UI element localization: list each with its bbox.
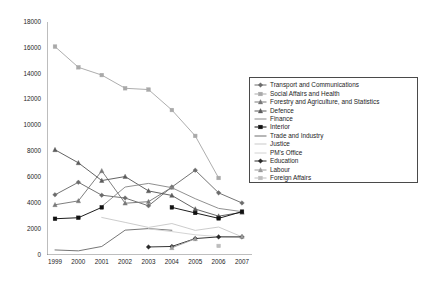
chart-canvas [47, 22, 252, 255]
data-point [193, 134, 197, 138]
data-point [193, 207, 197, 211]
legend-label: Finance [270, 115, 293, 123]
data-point [76, 160, 80, 164]
legend-item[interactable]: Transport and Communications [254, 81, 417, 89]
chart-figure: 0200040006000800010000120001400016000180… [0, 0, 422, 285]
legend-label: Social Affairs and Health [270, 90, 340, 98]
legend-marker-icon [254, 98, 267, 106]
legend-item[interactable]: Labour [254, 165, 417, 173]
series-social-affairs-and-health [53, 45, 220, 180]
data-point [53, 45, 57, 49]
data-point [100, 73, 104, 77]
legend-label: Trade and Industry [270, 132, 323, 140]
legend-label: Education [270, 157, 298, 165]
data-point [53, 217, 57, 221]
y-axis-tick-label: 12000 [7, 96, 41, 102]
data-point [170, 108, 174, 112]
legend-marker-icon [254, 174, 267, 182]
data-point [123, 174, 127, 178]
y-axis-tick-label: 14000 [7, 71, 41, 77]
legend-item[interactable]: Social Affairs and Health [254, 89, 417, 97]
legend-marker-icon [254, 107, 267, 115]
y-axis-tick-label: 18000 [7, 19, 41, 25]
data-point [100, 206, 104, 210]
legend-label: PM's Office [270, 149, 302, 157]
legend-label: Forestry and Agriculture, and Statistics [270, 98, 379, 106]
data-point [170, 206, 174, 210]
legend-label: Foreign Affairs [270, 174, 311, 182]
legend-item[interactable]: Education [254, 157, 417, 165]
y-axis: 0200040006000800010000120001400016000180… [5, 0, 41, 285]
data-point [76, 180, 81, 185]
legend-marker-icon [254, 166, 267, 174]
y-axis-tick-label: 8000 [7, 148, 41, 154]
data-point [240, 201, 245, 206]
legend-item[interactable]: Defence [254, 106, 417, 114]
data-point [77, 216, 81, 220]
data-point [53, 193, 58, 198]
chart-legend: Transport and CommunicationsSocial Affai… [249, 77, 418, 183]
series-foreign-affairs [217, 244, 221, 248]
legend-marker-icon [254, 115, 267, 123]
series-trade-and-industry [55, 229, 172, 251]
y-axis-tick-label: 0 [7, 252, 41, 258]
data-point [217, 244, 221, 248]
data-point [217, 176, 221, 180]
data-point [217, 217, 221, 221]
data-point [216, 235, 221, 240]
data-point [259, 92, 263, 96]
data-point [123, 196, 128, 201]
data-point [240, 210, 244, 214]
legend-label: Interior [270, 123, 290, 131]
y-axis-tick-label: 6000 [7, 174, 41, 180]
legend-marker-icon [254, 90, 267, 98]
data-point [99, 193, 104, 198]
data-point [77, 66, 81, 70]
legend-label: Transport and Communications [270, 81, 359, 89]
legend-label: Justice [270, 140, 290, 148]
legend-marker-icon [254, 132, 267, 140]
data-point [53, 147, 57, 151]
data-point [123, 86, 127, 90]
data-point [259, 126, 263, 130]
x-axis: 199920002001200220032004200520062007 [47, 258, 252, 272]
legend-item[interactable]: Justice [254, 140, 417, 148]
data-point [258, 159, 263, 164]
y-axis-tick-label: 4000 [7, 200, 41, 206]
data-point [146, 189, 150, 193]
data-point [100, 168, 104, 172]
legend-item[interactable]: Interior [254, 123, 417, 131]
data-point [259, 176, 263, 180]
legend-marker-icon [254, 149, 267, 157]
y-axis-tick-label: 10000 [7, 122, 41, 128]
y-axis-tick-label: 16000 [7, 45, 41, 51]
data-point [146, 245, 151, 250]
data-point [193, 211, 197, 215]
series-forestry-and-agriculture-and-statistics [53, 168, 174, 206]
legend-marker-icon [254, 123, 267, 131]
series-justice [102, 217, 242, 236]
legend-marker-icon [254, 140, 267, 148]
legend-marker-icon [254, 81, 267, 89]
legend-item[interactable]: Foreign Affairs [254, 174, 417, 182]
legend-item[interactable]: Forestry and Agriculture, and Statistics [254, 98, 417, 106]
y-axis-tick-label: 2000 [7, 226, 41, 232]
legend-item[interactable]: Finance [254, 115, 417, 123]
legend-label: Defence [270, 107, 294, 115]
legend-item[interactable]: PM's Office [254, 149, 417, 157]
x-axis-tick-label: 2007 [227, 258, 257, 265]
plot-area [47, 22, 252, 255]
data-point [258, 83, 263, 88]
legend-label: Labour [270, 166, 290, 174]
legend-item[interactable]: Trade and Industry [254, 132, 417, 140]
data-point [147, 88, 151, 92]
legend-marker-icon [254, 157, 267, 165]
